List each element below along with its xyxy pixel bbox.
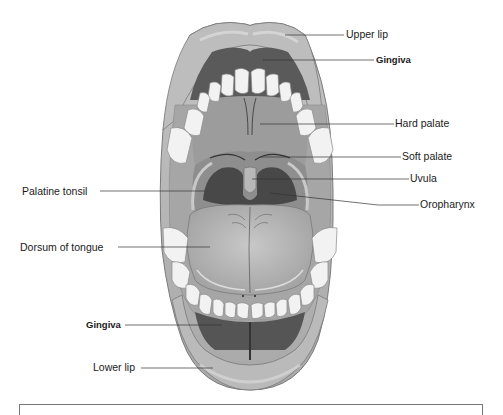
tongue xyxy=(187,205,313,297)
label-gingiva-upper: Gingiva xyxy=(376,54,411,66)
label-hard-palate: Hard palate xyxy=(395,117,449,129)
label-upper-lip: Upper lip xyxy=(346,28,388,40)
label-uvula: Uvula xyxy=(410,172,437,184)
label-oropharynx: Oropharynx xyxy=(420,198,475,210)
caption-frame xyxy=(19,404,483,415)
uvula xyxy=(244,167,256,193)
label-dorsum-of-tongue: Dorsum of tongue xyxy=(20,241,103,253)
label-lower-lip: Lower lip xyxy=(93,361,135,373)
label-palatine-tonsil: Palatine tonsil xyxy=(22,185,87,197)
label-gingiva-lower: Gingiva xyxy=(86,319,121,331)
label-soft-palate: Soft palate xyxy=(402,150,452,162)
